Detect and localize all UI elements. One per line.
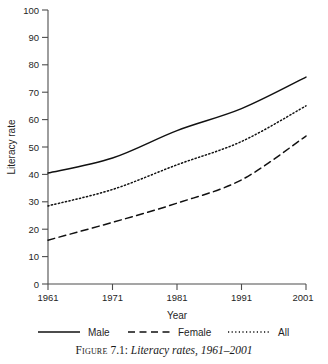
legend-item-all[interactable]: All (228, 327, 289, 338)
y-tick-label-40: 40 (28, 169, 39, 180)
figure-literacy-rates: 100 90 80 70 60 50 40 30 20 10 0 Literac… (0, 0, 328, 364)
y-tick-label-30: 30 (28, 196, 39, 207)
y-tick-label-60: 60 (28, 114, 39, 125)
series-line-male (48, 77, 306, 173)
x-tick-label-1961: 1961 (37, 292, 58, 303)
x-tick-label-1991: 1991 (231, 292, 252, 303)
series-group (48, 77, 306, 240)
legend-label-all: All (278, 327, 289, 338)
x-axis: 1961 1971 1981 1991 2001 Year (37, 284, 313, 321)
y-tick-label-90: 90 (28, 32, 39, 43)
y-axis-title: Literacy rate (6, 119, 17, 174)
y-tick-label-100: 100 (23, 5, 39, 16)
y-tick-label-70: 70 (28, 87, 39, 98)
figure-caption: Figure 7.1: Literacy rates, 1961–2001 (0, 344, 328, 356)
x-tick-label-1971: 1971 (102, 292, 123, 303)
y-axis: 100 90 80 70 60 50 40 30 20 10 0 Literac… (6, 5, 48, 290)
legend-label-male: Male (88, 327, 110, 338)
y-tick-label-0: 0 (34, 279, 39, 290)
chart-legend: Male Female All (38, 327, 289, 338)
x-tick-label-1981: 1981 (166, 292, 187, 303)
y-tick-label-80: 80 (28, 59, 39, 70)
x-tick-label-2001: 2001 (292, 292, 313, 303)
legend-item-female[interactable]: Female (128, 327, 212, 338)
series-line-all (48, 106, 306, 206)
literacy-rate-line-chart: 100 90 80 70 60 50 40 30 20 10 0 Literac… (0, 0, 328, 340)
y-tick-label-10: 10 (28, 251, 39, 262)
y-tick-label-20: 20 (28, 224, 39, 235)
caption-number: 7.1: (108, 344, 131, 356)
series-line-female (48, 136, 306, 240)
legend-label-female: Female (178, 327, 212, 338)
caption-title: Literacy rates, 1961–2001 (131, 344, 253, 356)
caption-figure-word: Figure (75, 344, 107, 356)
x-axis-title: Year (167, 310, 188, 321)
legend-item-male[interactable]: Male (38, 327, 110, 338)
y-tick-label-50: 50 (28, 142, 39, 153)
